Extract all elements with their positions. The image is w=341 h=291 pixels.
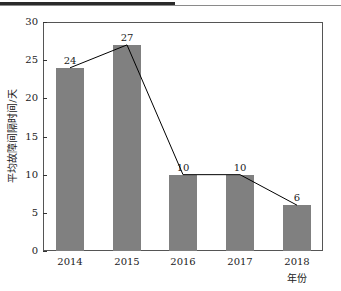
x-axis-title: 年份 (287, 270, 307, 285)
y-axis-title: 平均故障间隔时间/天 (4, 89, 19, 182)
trend-line (0, 0, 341, 291)
